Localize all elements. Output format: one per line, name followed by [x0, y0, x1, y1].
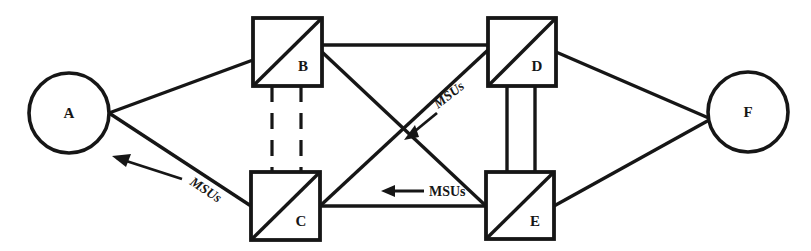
msu-e-c-arrow — [381, 185, 424, 197]
msu-a-c-arrow — [112, 154, 182, 179]
node-d-label: D — [532, 58, 543, 74]
node-f[interactable]: F — [708, 72, 788, 152]
node-a-label: A — [64, 105, 75, 121]
node-a[interactable]: A — [29, 73, 109, 153]
edge-e-f — [554, 119, 711, 206]
msu-a-c-arrowhead — [112, 154, 131, 167]
node-b-label: B — [298, 58, 308, 74]
edge-d-f — [556, 52, 711, 119]
annotation-msu-e-c: MSUs — [381, 184, 466, 199]
msu-d-c-arrow — [404, 113, 437, 140]
node-e-label: E — [530, 213, 540, 229]
node-c-label: C — [296, 213, 307, 229]
msu-e-c-label: MSUs — [429, 184, 466, 199]
node-c[interactable]: C — [251, 172, 320, 240]
node-b[interactable]: B — [253, 18, 322, 86]
network-diagram: A B C D — [0, 0, 811, 251]
diagram-canvas: A B C D — [0, 0, 811, 251]
msu-e-c-arrowhead — [381, 185, 395, 197]
node-d[interactable]: D — [488, 18, 556, 86]
node-f-label: F — [743, 104, 752, 120]
annotation-msu-a-c: MSUs — [112, 154, 224, 205]
edge-a-c — [109, 113, 251, 206]
annotation-msu-d-c: MSUs — [404, 78, 467, 140]
msu-d-c-label: MSUs — [430, 78, 467, 112]
edge-b-c-dashed-double — [272, 86, 301, 172]
node-e[interactable]: E — [486, 172, 554, 239]
edge-a-b — [109, 60, 253, 113]
edge-d-e-solid-double — [507, 86, 535, 172]
